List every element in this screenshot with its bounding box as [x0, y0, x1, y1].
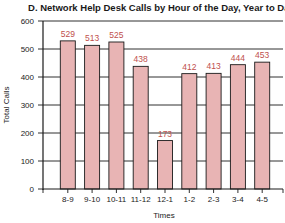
x-tick-label: 11-12 [131, 195, 151, 204]
value-label: 173 [158, 129, 172, 139]
y-tick-label: 0 [30, 185, 35, 194]
y-tick-label: 300 [21, 101, 35, 110]
value-label: 529 [61, 29, 75, 39]
bar-11-12 [133, 66, 148, 189]
bar-3-4 [230, 65, 245, 189]
x-axis-label: Times [153, 211, 174, 220]
x-tick-label: 12-1 [157, 195, 174, 204]
bar-1-2 [182, 74, 197, 189]
bar-12-1 [158, 141, 173, 189]
x-tick-label: 10-11 [106, 195, 126, 204]
chart-title: D. Network Help Desk Calls by Hour of th… [28, 2, 285, 13]
value-label: 412 [182, 62, 196, 72]
value-label: 438 [134, 54, 148, 64]
x-axis-ticks: 8-99-1010-1111-1212-11-22-33-44-5 [43, 189, 283, 204]
value-label: 444 [231, 53, 245, 63]
y-tick-label: 500 [21, 45, 35, 54]
value-label: 513 [85, 33, 99, 43]
y-tick-label: 200 [21, 129, 35, 138]
x-tick-label: 4-5 [256, 195, 268, 204]
bar-9-10 [85, 45, 100, 189]
bar-chart: D. Network Help Desk Calls by Hour of th… [0, 0, 285, 223]
x-tick-label: 1-2 [184, 195, 196, 204]
y-tick-label: 100 [21, 157, 35, 166]
value-label: 413 [207, 61, 221, 71]
value-label: 525 [109, 30, 123, 40]
y-axis-ticks: 0100200300400500600 [21, 17, 35, 194]
bar-10-11 [109, 42, 124, 189]
y-axis-label: Total Calls [2, 87, 11, 124]
value-label: 453 [255, 50, 269, 60]
x-tick-label: 9-10 [84, 195, 101, 204]
x-tick-label: 8-9 [62, 195, 74, 204]
bar-8-9 [60, 41, 75, 189]
bars: 529513525438173412413444453 [60, 29, 269, 189]
x-tick-label: 2-3 [208, 195, 220, 204]
bar-4-5 [255, 62, 270, 189]
y-tick-label: 400 [21, 73, 35, 82]
bar-2-3 [206, 73, 221, 189]
y-tick-label: 600 [21, 17, 35, 26]
x-tick-label: 3-4 [232, 195, 244, 204]
